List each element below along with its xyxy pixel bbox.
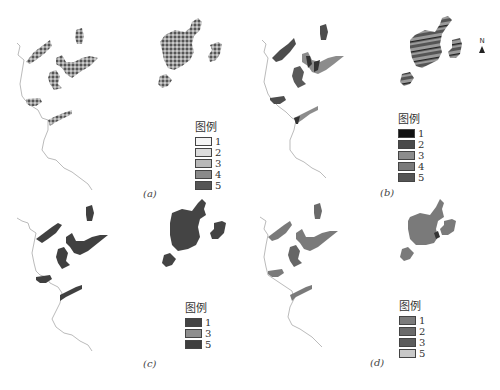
legend-title: 图例	[399, 297, 425, 313]
legend-swatch	[195, 159, 212, 168]
legend-item: 1	[185, 317, 211, 328]
legend-item: 5	[399, 348, 425, 359]
panel-a: 图例 1 2 3 4 5 (a)	[0, 0, 250, 195]
legend-swatch	[185, 329, 202, 338]
legend-item: 5	[398, 172, 424, 183]
legend-title: 图例	[185, 299, 211, 315]
legend-c: 图例 1 3 5	[185, 299, 211, 350]
legend-swatch	[195, 148, 212, 157]
map-river-patches-d	[250, 195, 380, 365]
legend-item: 2	[398, 139, 424, 150]
panel-b: N 图例 1 2 3 4 5 (b)	[250, 0, 500, 195]
legend-item: 2	[399, 326, 425, 337]
panel-caption-c: (c)	[143, 358, 156, 369]
legend-item: 5	[185, 339, 211, 350]
legend-item: 3	[398, 150, 424, 161]
legend-swatch	[185, 340, 202, 349]
legend-swatch	[195, 181, 212, 190]
legend-item: 1	[398, 128, 424, 139]
legend-item: 3	[195, 158, 221, 169]
panel-d: 图例 1 2 3 5 (d)	[250, 195, 500, 390]
legend-title: 图例	[398, 110, 424, 126]
map-city-patches-c	[130, 195, 250, 295]
map-river-patches-a	[0, 0, 130, 195]
legend-d: 图例 1 2 3 5	[399, 297, 425, 359]
legend-swatch	[398, 129, 415, 138]
legend-item: 1	[399, 315, 425, 326]
legend-item: 2	[195, 147, 221, 158]
legend-item: 5	[195, 180, 221, 191]
legend-swatch	[398, 173, 415, 182]
map-river-patches-c	[0, 195, 130, 365]
legend-swatch	[195, 137, 212, 146]
legend-b: 图例 1 2 3 4 5	[398, 110, 424, 183]
legend-swatch	[398, 151, 415, 160]
north-label: N	[477, 37, 487, 45]
panel-c: 图例 1 3 5 (c)	[0, 195, 250, 390]
legend-title: 图例	[195, 118, 221, 134]
legend-swatch	[399, 338, 416, 347]
legend-swatch	[398, 162, 415, 171]
legend-item: 3	[399, 337, 425, 348]
legend-swatch	[195, 170, 212, 179]
map-river-patches-b	[250, 0, 380, 195]
legend-item: 4	[195, 169, 221, 180]
legend-item: 4	[398, 161, 424, 172]
north-arrow-icon: N	[477, 37, 487, 53]
legend-swatch	[185, 318, 202, 327]
legend-item: 1	[195, 136, 221, 147]
map-city-patches-a	[130, 0, 250, 100]
legend-swatch	[399, 327, 416, 336]
legend-swatch	[398, 140, 415, 149]
map-city-patches-d	[380, 195, 500, 295]
legend-item: 3	[185, 328, 211, 339]
legend-swatch	[399, 316, 416, 325]
panel-caption-d: (d)	[370, 357, 384, 368]
legend-a: 图例 1 2 3 4 5	[195, 118, 221, 191]
legend-swatch	[399, 349, 416, 358]
